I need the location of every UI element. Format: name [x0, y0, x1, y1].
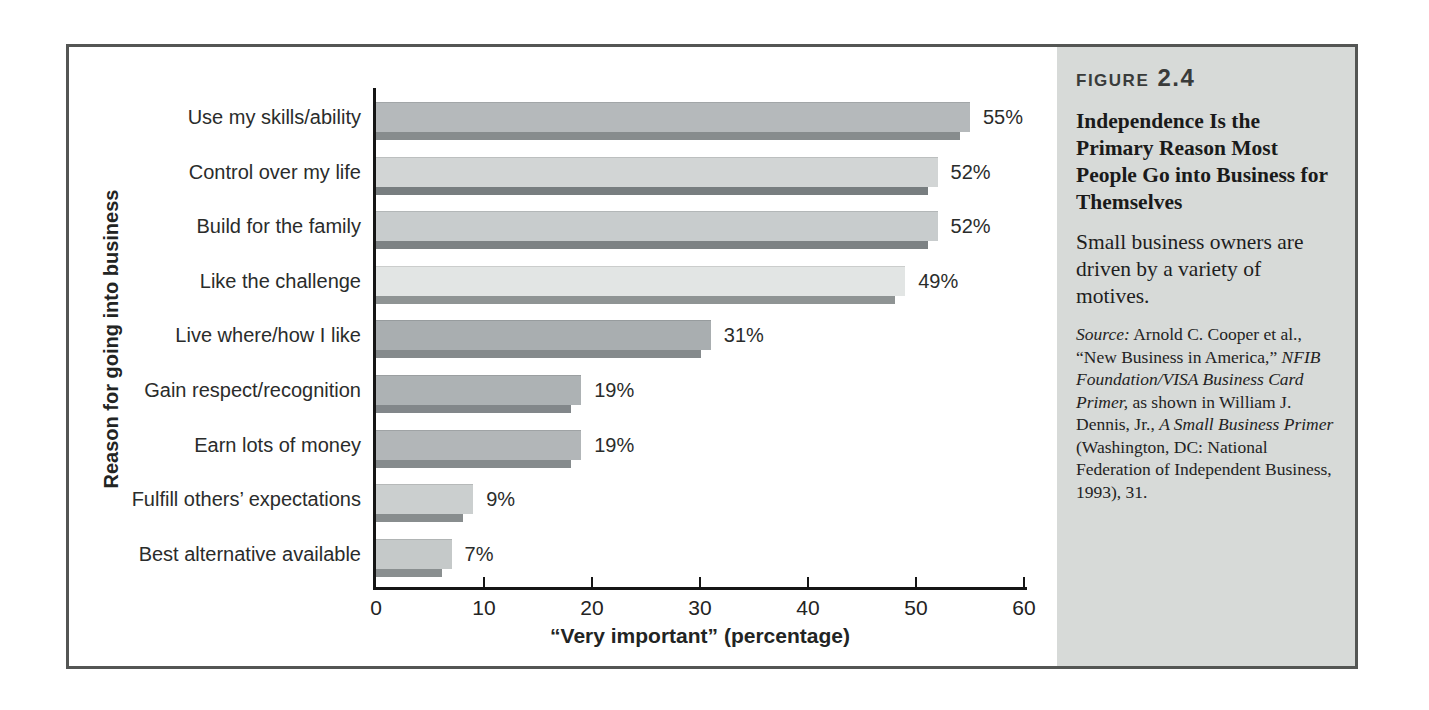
value-label: 31% — [724, 322, 764, 348]
plot-area: 0102030405060 — [373, 88, 1033, 590]
bar-shadow — [376, 241, 928, 249]
category-label: Control over my life — [69, 159, 361, 185]
category-label: Live where/how I like — [69, 322, 361, 348]
bar-shadow — [376, 296, 895, 304]
x-axis-line — [373, 587, 1027, 590]
bar — [376, 266, 905, 296]
bar-shadow — [376, 460, 571, 468]
bar — [376, 430, 581, 460]
tick-mark — [699, 577, 701, 587]
tick-label: 30 — [670, 596, 730, 620]
category-label: Use my skills/ability — [69, 104, 361, 130]
tick-mark — [591, 577, 593, 587]
tick-label: 10 — [454, 596, 514, 620]
figure-source: Source: Arnold C. Cooper et al., “New Bu… — [1076, 323, 1334, 503]
bar — [376, 375, 581, 405]
bar-shadow — [376, 132, 960, 140]
tick-label: 40 — [778, 596, 838, 620]
figure-frame: Reason for going into business 010203040… — [66, 44, 1358, 669]
value-label: 52% — [951, 213, 991, 239]
figure-title: Independence Is the Primary Reason Most … — [1076, 108, 1339, 216]
figure-subtitle: Small business owners are driven by a va… — [1076, 229, 1339, 310]
tick-label: 50 — [886, 596, 946, 620]
bar — [376, 320, 711, 350]
value-label: 49% — [918, 268, 958, 294]
value-label: 52% — [951, 159, 991, 185]
bar-shadow — [376, 350, 701, 358]
tick-mark — [1023, 577, 1025, 587]
category-label: Best alternative available — [69, 541, 361, 567]
figure-label: Figure 2.4 — [1076, 64, 1339, 92]
source-segment-italic: A Small Business Primer — [1159, 414, 1333, 434]
bar — [376, 157, 938, 187]
value-label: 19% — [594, 377, 634, 403]
bar-shadow — [376, 187, 928, 195]
category-label: Gain respect/recognition — [69, 377, 361, 403]
bar — [376, 102, 970, 132]
tick-mark — [483, 577, 485, 587]
value-label: 7% — [465, 541, 494, 567]
source-segment-italic: Source: — [1076, 324, 1130, 344]
value-label: 55% — [983, 104, 1023, 130]
tick-mark — [807, 577, 809, 587]
bar — [376, 484, 473, 514]
bar-chart: Reason for going into business 010203040… — [69, 47, 1057, 666]
category-label: Earn lots of money — [69, 432, 361, 458]
tick-label: 0 — [346, 596, 406, 620]
category-label: Fulfill others’ expectations — [69, 486, 361, 512]
sidebar-panel: Figure 2.4 Independence Is the Primary R… — [1057, 47, 1355, 666]
tick-mark — [915, 577, 917, 587]
category-label: Build for the family — [69, 213, 361, 239]
bar-shadow — [376, 405, 571, 413]
x-axis-title: “Very important” (percentage) — [373, 624, 1027, 648]
tick-label: 60 — [994, 596, 1054, 620]
category-label: Like the challenge — [69, 268, 361, 294]
bar — [376, 211, 938, 241]
tick-label: 20 — [562, 596, 622, 620]
source-segment: (Washington, DC: National Federation of … — [1076, 437, 1332, 502]
bar-shadow — [376, 569, 442, 577]
bar-shadow — [376, 514, 463, 522]
value-label: 9% — [486, 486, 515, 512]
value-label: 19% — [594, 432, 634, 458]
bar — [376, 539, 452, 569]
